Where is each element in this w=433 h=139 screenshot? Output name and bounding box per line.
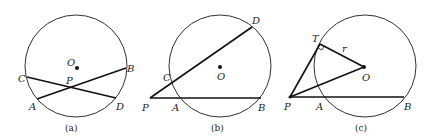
label-b-a: B [126, 63, 134, 74]
center-dot-c [362, 65, 366, 69]
label-b-c: B [403, 101, 411, 112]
label-o-a: O [67, 57, 75, 68]
label-d-b: D [251, 15, 260, 26]
caption-b: (b) [211, 123, 224, 133]
label-p-b: P [141, 102, 149, 113]
chord-ab [37, 68, 126, 99]
figure-c: T r O P A B (c) [283, 15, 416, 133]
caption-a: (a) [65, 123, 77, 133]
label-a-b: A [171, 102, 179, 113]
secant-pcd [150, 27, 252, 98]
label-o-c: O [362, 72, 370, 83]
label-a-c: A [315, 101, 323, 112]
label-o-b: O [217, 71, 225, 82]
segment-po [290, 67, 364, 97]
label-r-c: r [342, 43, 348, 54]
center-dot-a [75, 66, 79, 70]
label-t-c: T [312, 33, 320, 44]
label-p-c: P [283, 101, 291, 112]
figure-b: O P A B C D (b) [141, 15, 271, 133]
figure-a: O P C B A D (a) [18, 15, 134, 133]
label-c-b: C [163, 72, 171, 83]
label-a-a: A [28, 101, 36, 112]
label-b-b: B [257, 102, 265, 113]
tangent-pt [290, 44, 320, 97]
point-p-c [289, 96, 292, 99]
caption-c: (c) [355, 123, 367, 133]
label-c-a: C [18, 73, 26, 84]
label-p-a: P [65, 75, 73, 86]
power-of-point-diagram: O P C B A D (a) O P A B C D (b) T r O P … [0, 0, 433, 139]
circle-a [25, 15, 127, 117]
label-d-a: D [115, 101, 124, 112]
center-dot-b [218, 65, 222, 69]
